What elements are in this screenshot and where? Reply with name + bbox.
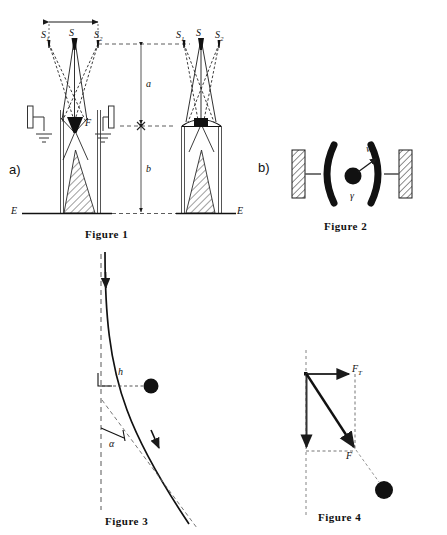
focus-label-f: F xyxy=(85,117,91,128)
particle xyxy=(345,168,362,185)
panel-letter-a: a) xyxy=(9,162,21,177)
particle-connector xyxy=(356,450,379,482)
caption-figure-4: Figure 4 xyxy=(318,511,361,523)
focus-marker xyxy=(67,117,83,133)
figure-plate: a) S1 S S2 F a b S1 S S2 E E Figure 1 xyxy=(0,0,447,535)
beam-waist-right xyxy=(189,127,214,152)
figure-1-right-diagram xyxy=(176,38,236,214)
transverse-force-label: FT xyxy=(352,363,362,377)
right-angle-marker xyxy=(98,373,112,386)
source-label-s-right: S xyxy=(196,27,201,38)
left-electrode xyxy=(327,145,334,203)
source-label-s-left: S xyxy=(69,27,74,38)
figure-2: b) w γ Figure 2 xyxy=(258,112,447,242)
figure-3: h α Figure 3 xyxy=(55,252,275,535)
dimension-label-a: a xyxy=(146,78,151,89)
figure-4-svg xyxy=(278,350,438,535)
figure-1-left-diagram xyxy=(22,22,114,214)
source-label-s2-right: S2 xyxy=(215,29,224,43)
focus-block-right xyxy=(194,118,208,127)
ground-electrode-left xyxy=(28,106,53,142)
baseline-label-e-left: E xyxy=(11,205,17,216)
particle xyxy=(375,481,393,499)
angle-label-alpha: α xyxy=(109,438,114,449)
hatched-discharge-cone-right xyxy=(186,150,215,213)
caption-figure-3: Figure 3 xyxy=(105,515,148,527)
right-wall xyxy=(399,150,412,198)
angle-label-gamma: γ xyxy=(350,190,354,201)
tangent-asymptote xyxy=(102,400,197,528)
hatched-discharge-cone xyxy=(64,150,95,213)
left-wall xyxy=(292,150,305,198)
particle xyxy=(144,379,159,394)
figure-3-svg xyxy=(55,252,275,535)
source-label-s2-left: S2 xyxy=(94,29,103,43)
panel-letter-b: b) xyxy=(258,160,270,175)
figure-1: a) S1 S S2 F a b S1 S S2 E E Figure 1 xyxy=(0,0,260,250)
dimension-column xyxy=(98,44,190,214)
outer-dashed-rays xyxy=(49,44,98,122)
resultant-force-label: F xyxy=(346,450,352,461)
figure-4: FT F Figure 4 xyxy=(278,350,438,535)
baseline-label-e-right: E xyxy=(237,205,243,216)
source-label-s1-left: S1 xyxy=(41,29,50,43)
source-label-s1-right: S1 xyxy=(176,29,185,43)
resultant-force-vector xyxy=(307,374,355,447)
dimension-label-b: b xyxy=(146,163,151,174)
central-solid-rays-right xyxy=(186,44,216,122)
caption-figure-2: Figure 2 xyxy=(324,220,367,232)
velocity-label-w: w xyxy=(366,143,373,154)
offset-label-h: h xyxy=(118,366,123,377)
source-markers xyxy=(48,38,100,50)
caption-figure-1: Figure 1 xyxy=(85,228,128,240)
